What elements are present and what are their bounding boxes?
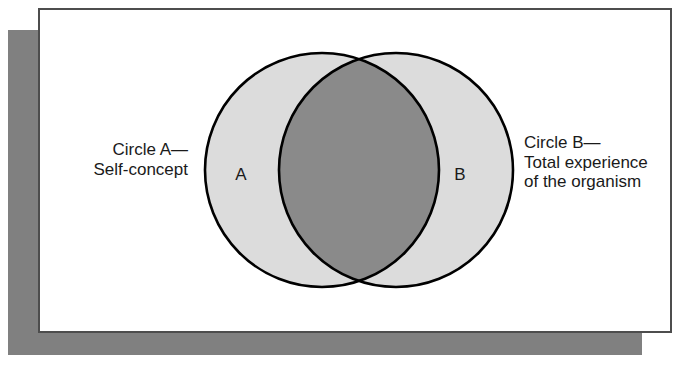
circle-b-label: Circle B— Total experience of the organi… [524, 133, 648, 192]
circle-b-letter: B [448, 165, 472, 185]
circle-a-letter: A [229, 165, 253, 185]
figure-root: A B Circle A— Self-concept Circle B— Tot… [0, 0, 684, 368]
circle-a-label: Circle A— Self-concept [94, 140, 189, 179]
